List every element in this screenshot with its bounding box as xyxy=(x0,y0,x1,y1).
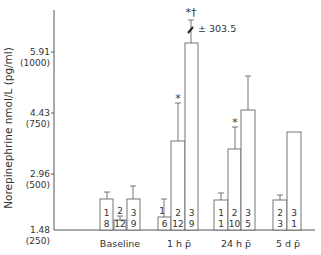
svg-text:± 303.5: ± 303.5 xyxy=(198,23,236,34)
svg-text:(250): (250) xyxy=(26,236,50,246)
svg-text:1: 1 xyxy=(218,219,224,229)
svg-text:1: 1 xyxy=(159,206,165,216)
svg-text:8: 8 xyxy=(104,219,110,229)
svg-text:5.91: 5.91 xyxy=(30,47,50,57)
svg-text:5: 5 xyxy=(245,219,251,229)
svg-text:3: 3 xyxy=(277,219,283,229)
svg-text:(750): (750) xyxy=(26,119,50,129)
bar-labels: 1 8 2 12 3 9 1 6 2 12 3 9 1 1 2 10 3 5 2… xyxy=(104,206,297,229)
svg-text:2.96: 2.96 xyxy=(30,169,50,179)
svg-text:2: 2 xyxy=(117,206,123,216)
svg-text:Baseline: Baseline xyxy=(100,238,140,249)
svg-text:4.43: 4.43 xyxy=(30,108,50,118)
svg-text:*: * xyxy=(232,116,238,129)
svg-text:1: 1 xyxy=(218,208,224,218)
svg-text:24 h p̄: 24 h p̄ xyxy=(221,238,251,249)
svg-text:3: 3 xyxy=(291,208,297,218)
bars xyxy=(100,20,301,230)
x-category-labels: Baseline 1 h p̄ 24 h p̄ 5 d p̄ xyxy=(100,238,300,249)
svg-text:*: * xyxy=(175,92,181,105)
svg-text:9: 9 xyxy=(131,219,137,229)
svg-text:3: 3 xyxy=(131,208,137,218)
svg-text:3: 3 xyxy=(245,208,251,218)
y-axis-label: Norepinephrine nmol/L (pg/ml) xyxy=(2,47,14,209)
y-ticks: 5.91 (1000) 4.43 (750) 2.96 (500) 1.48 (… xyxy=(20,47,54,246)
axis-break-mark xyxy=(188,27,193,33)
svg-text:2: 2 xyxy=(232,208,238,218)
svg-text:1: 1 xyxy=(104,208,110,218)
svg-text:2: 2 xyxy=(175,208,181,218)
svg-text:1 h p̄: 1 h p̄ xyxy=(167,238,191,249)
svg-text:5 d p̄: 5 d p̄ xyxy=(276,238,300,249)
svg-text:1: 1 xyxy=(291,219,297,229)
svg-text:(1000): (1000) xyxy=(20,58,50,68)
svg-text:1.48: 1.48 xyxy=(30,225,50,235)
svg-text:10: 10 xyxy=(229,219,241,229)
bar-chart: Norepinephrine nmol/L (pg/ml) 5.91 (1000… xyxy=(0,0,321,255)
svg-text:3: 3 xyxy=(189,208,195,218)
svg-text:9: 9 xyxy=(189,219,195,229)
svg-text:12: 12 xyxy=(114,219,125,229)
svg-text:12: 12 xyxy=(172,219,183,229)
svg-text:*†: *† xyxy=(186,6,198,19)
svg-text:2: 2 xyxy=(277,208,283,218)
svg-text:6: 6 xyxy=(162,219,168,229)
svg-text:(500): (500) xyxy=(26,180,50,190)
